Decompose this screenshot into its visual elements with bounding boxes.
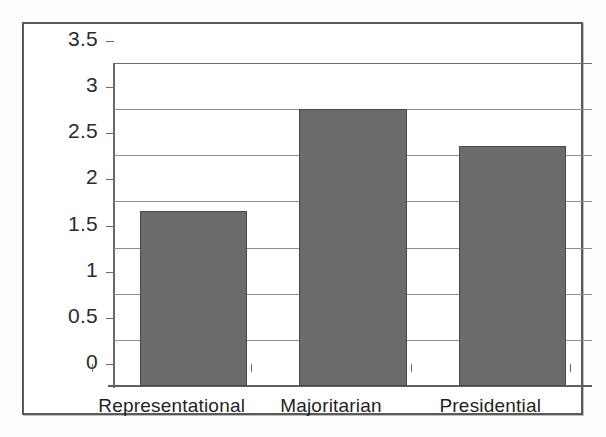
- y-tick-0.5: [106, 318, 114, 319]
- y-tick-3: [106, 87, 114, 88]
- y-tick-label-1: 1: [24, 258, 98, 282]
- y-tick-1.5: [106, 226, 114, 227]
- bar-presidential: [459, 146, 567, 386]
- y-tick-3.5: [106, 41, 114, 42]
- y-tick-label-0: 0: [24, 350, 98, 374]
- y-tick-label-2: 2: [24, 165, 98, 189]
- x-tick-0: [92, 364, 93, 372]
- y-tick-label-1.5: 1.5: [24, 212, 98, 236]
- plot-area: [114, 63, 592, 386]
- x-tick-1: [251, 364, 252, 372]
- x-axis-label-representational: Representational: [92, 395, 251, 417]
- y-tick-label-3.5: 3.5: [24, 27, 98, 51]
- x-axis-label-majoritarian: Majoritarian: [251, 395, 410, 417]
- y-tick-1: [106, 272, 114, 273]
- y-tick-2.5: [106, 133, 114, 134]
- bar-chart-figure: 00.511.522.533.5RepresentationalMajorita…: [0, 0, 606, 437]
- y-tick-label-2.5: 2.5: [24, 119, 98, 143]
- x-tick-3: [570, 364, 571, 372]
- bar-representational: [140, 211, 248, 386]
- y-tick-label-3: 3: [24, 73, 98, 97]
- chart-outer-frame: 00.511.522.533.5RepresentationalMajorita…: [22, 22, 583, 415]
- bar-majoritarian: [299, 109, 407, 386]
- x-axis-label-presidential: Presidential: [411, 395, 570, 417]
- y-tick-label-0.5: 0.5: [24, 304, 98, 328]
- gridline-3.5: [114, 63, 592, 64]
- y-tick-2: [106, 179, 114, 180]
- y-tick-0: [106, 364, 114, 365]
- x-tick-2: [411, 364, 412, 372]
